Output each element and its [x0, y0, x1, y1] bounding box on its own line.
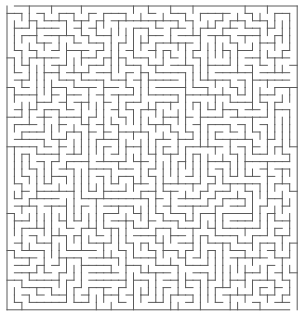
maze-walls — [7, 6, 297, 310]
maze-grid — [0, 0, 303, 318]
